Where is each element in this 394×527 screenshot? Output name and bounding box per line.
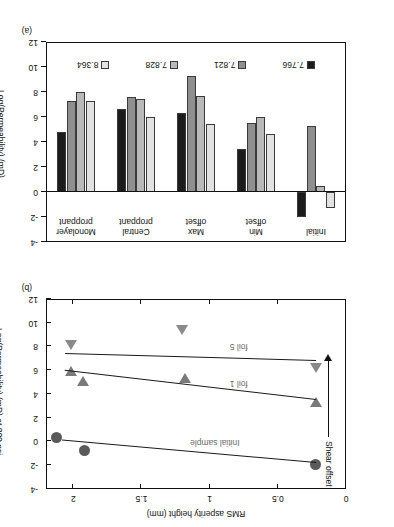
panel-a-y-tick bbox=[41, 66, 46, 67]
category-label-line2: offset bbox=[162, 217, 230, 227]
panel-a-y-tick bbox=[41, 141, 46, 142]
panel-b-x-tick-bottom bbox=[140, 299, 141, 304]
panel-b-y-tick-label: 6 bbox=[20, 366, 38, 376]
panel-b-x-axis-title: RMS asperity height (mm) bbox=[141, 509, 251, 519]
category-label-line2: proppant bbox=[42, 217, 110, 227]
category-label-line2: proppant bbox=[102, 217, 170, 227]
panel-b-y-tick bbox=[46, 298, 51, 299]
series-label: foil 1 bbox=[230, 379, 248, 389]
bar bbox=[136, 100, 145, 193]
bar bbox=[297, 192, 306, 217]
panel-b-y-tick bbox=[46, 488, 51, 489]
category-label: Initial bbox=[282, 227, 350, 237]
panel-a-tag: (a) bbox=[22, 26, 32, 36]
panel-a-y-axis-title: Log(Permeability) (mD) bbox=[0, 90, 6, 178]
bar bbox=[196, 96, 205, 192]
panel-a-y-tick-label: 0 bbox=[20, 188, 38, 198]
legend-label: 7.828 bbox=[146, 60, 167, 70]
legend-label: 8.364 bbox=[77, 60, 98, 70]
panel-a-bar-chart: -4-2024681012 InitialMinoffsetMaxoffsetC… bbox=[0, 0, 394, 264]
panel-a-y-tick bbox=[41, 166, 46, 167]
panel-b-x-tick bbox=[72, 484, 73, 489]
legend-swatch bbox=[170, 61, 178, 69]
panel-a-zero-baseline bbox=[46, 191, 346, 192]
panel-b-x-tick-label: 2 bbox=[59, 494, 87, 504]
panel-b-x-tick bbox=[209, 484, 210, 489]
data-point-triangle-down bbox=[179, 373, 191, 383]
category-label-line1: Max bbox=[162, 227, 230, 237]
legend-swatch bbox=[238, 61, 246, 69]
panel-b-x-tick-bottom bbox=[277, 299, 278, 304]
data-point-triangle-down bbox=[77, 376, 89, 386]
bar bbox=[86, 101, 95, 192]
legend-item: 7.821 bbox=[214, 60, 246, 70]
legend-swatch bbox=[101, 61, 109, 69]
bar bbox=[187, 76, 196, 192]
panel-b-y-tick bbox=[46, 369, 51, 370]
panel-a-legend: 7.7667.8217.8288.364 bbox=[64, 60, 328, 70]
panel-b-y-tick-label: -4 bbox=[20, 485, 38, 495]
category-label-line1: Min bbox=[222, 227, 290, 237]
category-label-line2: offset bbox=[222, 217, 290, 227]
bar bbox=[177, 113, 186, 192]
panel-a-y-tick-label: -2 bbox=[20, 213, 38, 223]
panel-b-x-tick-label: 0 bbox=[332, 494, 360, 504]
panel-b-y-tick bbox=[46, 441, 51, 442]
panel-b-y-tick bbox=[46, 322, 51, 323]
panel-b-y-tick bbox=[46, 417, 51, 418]
bar bbox=[146, 117, 155, 192]
panel-b-y-tick bbox=[46, 464, 51, 465]
panel-a-y-tick-label: 10 bbox=[20, 63, 38, 73]
category-label: Monolayerproppant bbox=[42, 217, 110, 236]
category-label-line1: Initial bbox=[282, 227, 350, 237]
category-label-line1: Monolayer bbox=[42, 227, 110, 237]
panel-b-y-tick-label: 10 bbox=[20, 319, 38, 329]
panel-b-x-tick bbox=[345, 484, 346, 489]
panel-a-y-tick bbox=[41, 91, 46, 92]
bar bbox=[206, 125, 215, 193]
series-label: Initial sample bbox=[190, 438, 240, 448]
panel-a-y-tick-label: 2 bbox=[20, 163, 38, 173]
panel-b-scatter-plot: 00.511.52 -4-2024681012 Initial samplefo… bbox=[0, 264, 394, 527]
data-point-triangle-up bbox=[310, 363, 322, 373]
panel-b-y-tick bbox=[46, 346, 51, 347]
panel-b-y-axis-title: Log(Permeability) (mD) at 800 psi bbox=[0, 328, 4, 455]
panel-b-y-tick-label: 8 bbox=[20, 343, 38, 353]
bar bbox=[67, 101, 76, 192]
category-label: Centralproppant bbox=[102, 217, 170, 236]
bar bbox=[326, 192, 335, 208]
shear-offset-annotation: Shear offset bbox=[324, 441, 334, 487]
bar bbox=[307, 126, 316, 192]
panel-b-x-tick-bottom bbox=[72, 299, 73, 304]
panel-b-y-tick-label: 12 bbox=[20, 295, 38, 305]
panel-b-x-tick bbox=[140, 484, 141, 489]
panel-b-x-tick-label: 1.5 bbox=[127, 494, 155, 504]
data-point-triangle-up bbox=[176, 325, 188, 335]
panel-a-y-tick bbox=[41, 241, 46, 242]
panel-a-y-tick bbox=[41, 116, 46, 117]
legend-label: 7.821 bbox=[214, 60, 235, 70]
figure-rotated-container: 00.511.52 -4-2024681012 Initial samplefo… bbox=[0, 0, 394, 527]
legend-label: 7.766 bbox=[283, 60, 304, 70]
bar bbox=[57, 132, 66, 192]
panel-a-y-tick-label: 12 bbox=[20, 38, 38, 48]
panel-b-x-tick bbox=[277, 484, 278, 489]
bar bbox=[237, 150, 246, 193]
data-point-triangle-up bbox=[65, 340, 77, 350]
panel-b-tag: (b) bbox=[22, 283, 32, 293]
legend-item: 7.828 bbox=[146, 60, 178, 70]
legend-swatch bbox=[307, 61, 315, 69]
panel-b-y-tick-label: 4 bbox=[20, 390, 38, 400]
panel-b-y-tick-label: 2 bbox=[20, 414, 38, 424]
panel-b-x-tick-label: 1 bbox=[196, 494, 224, 504]
bar bbox=[256, 117, 265, 192]
shear-offset-arrowhead-icon bbox=[325, 354, 333, 361]
legend-item: 7.766 bbox=[283, 60, 315, 70]
panel-b-x-tick-label: 0.5 bbox=[264, 494, 292, 504]
bar bbox=[266, 135, 275, 193]
panel-b-y-tick-label: 0 bbox=[20, 438, 38, 448]
panel-a-y-tick bbox=[41, 41, 46, 42]
panel-b-y-tick-label: -2 bbox=[20, 461, 38, 471]
shear-offset-arrow-icon bbox=[328, 359, 329, 437]
bar bbox=[76, 92, 85, 192]
